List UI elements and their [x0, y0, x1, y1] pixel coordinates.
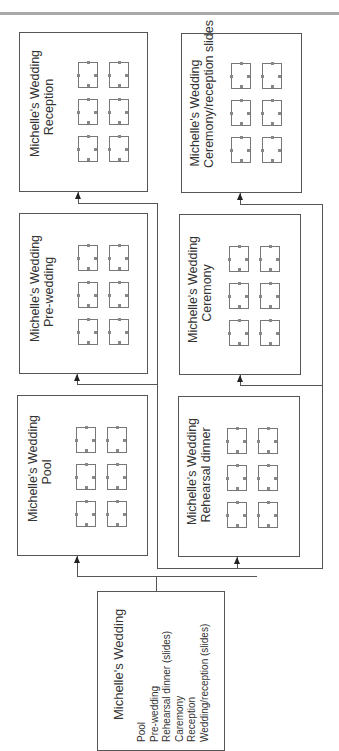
overview-item: Pre-wedding	[149, 624, 162, 742]
section-title-line2: Ceremony/reception slides	[202, 58, 216, 168]
slide-thumbnail	[260, 246, 280, 272]
overview-title: Michelle's Wedding	[112, 609, 126, 720]
slide-thumbnail	[78, 319, 98, 345]
slide-thumbnail	[260, 320, 280, 346]
section-title-line2: Pool	[40, 422, 54, 522]
section-title-line1: Michelle's Wedding	[28, 57, 42, 157]
slide-thumbnail	[109, 319, 129, 345]
section-title: Michelle's Wedding Ceremony/reception sl…	[188, 58, 216, 168]
arrow-up-icon	[74, 374, 80, 381]
arrow-up-icon	[237, 193, 243, 200]
connector	[157, 384, 158, 568]
slide-thumbnail	[76, 427, 96, 453]
section-box-reception: Michelle's Wedding Reception	[19, 32, 148, 192]
slide-thumbnail	[260, 283, 280, 309]
slide-thumbnail	[78, 62, 98, 88]
section-box-pre-wedding: Michelle's Wedding Pre-wedding	[19, 213, 148, 374]
section-title: Michelle's Wedding Pre-wedding	[28, 242, 56, 342]
slide-thumbnail	[76, 464, 96, 490]
overview-item-list: Pool Pre-wedding Rehearsal dinner (slide…	[136, 624, 211, 742]
slide-thumbnail	[262, 100, 282, 126]
slide-thumbnail	[78, 245, 98, 271]
section-title-line2: Reception	[42, 57, 56, 157]
section-box-ceremony: Michelle's Wedding Ceremony	[179, 214, 301, 375]
arrow-up-icon	[75, 192, 81, 199]
slide-thumbnail	[258, 502, 278, 528]
overview-item: Caremony	[174, 624, 187, 742]
slide-thumbnail	[109, 99, 129, 125]
section-box-ceremony-reception-slides: Michelle's Wedding Ceremony/reception sl…	[181, 33, 302, 193]
slide-thumbnail	[78, 136, 98, 162]
section-title-line1: Michelle's Wedding	[186, 243, 200, 343]
slide-thumbnail	[229, 246, 249, 272]
section-title: Michelle's Wedding Pool	[26, 422, 54, 522]
connector	[322, 204, 323, 385]
section-title: Michelle's Wedding Reception	[28, 57, 56, 157]
slide-thumbnail	[107, 464, 127, 490]
section-box-pool: Michelle's Wedding Pool	[17, 395, 148, 556]
slide-thumbnail	[229, 320, 249, 346]
overview-item: Rehearsal dinner (slides)	[161, 624, 174, 742]
section-title-line1: Michelle's Wedding	[185, 425, 199, 525]
slide-thumbnail	[231, 63, 251, 89]
section-title-line2: Ceremony	[200, 243, 214, 343]
connector	[78, 203, 158, 204]
slide-thumbnail	[262, 137, 282, 163]
slide-thumbnail	[231, 137, 251, 163]
slide-thumbnail	[227, 465, 247, 491]
overview-item: Pool	[136, 624, 149, 742]
connector	[157, 568, 323, 569]
slide-thumbnail	[258, 465, 278, 491]
slide-thumbnail	[227, 502, 247, 528]
connector	[240, 204, 323, 205]
slide-thumbnail	[76, 501, 96, 527]
connector	[157, 203, 158, 385]
section-title-line1: Michelle's Wedding	[26, 422, 40, 522]
overview-box: Michelle's Wedding Pool Pre-wedding Rehe…	[97, 591, 225, 751]
connector	[77, 384, 158, 385]
connector	[156, 576, 157, 591]
connector	[240, 385, 323, 386]
slide-thumbnail	[109, 282, 129, 308]
slide-thumbnail	[262, 63, 282, 89]
section-box-rehearsal-dinner: Michelle's Wedding Rehearsal dinner	[178, 396, 300, 557]
arrow-up-icon	[237, 375, 243, 382]
section-title-line2: Rehearsal dinner	[199, 425, 213, 525]
section-title: Michelle's Wedding Ceremony	[186, 243, 214, 343]
overview-item: Wedding/reception (slides)	[199, 624, 212, 742]
slide-thumbnail	[229, 283, 249, 309]
slide-thumbnail	[109, 136, 129, 162]
connector	[77, 576, 257, 577]
slide-thumbnail	[109, 62, 129, 88]
slide-thumbnail	[258, 428, 278, 454]
arrow-up-icon	[74, 556, 80, 563]
section-title-line1: Michelle's Wedding	[28, 242, 42, 342]
slide-thumbnail	[231, 100, 251, 126]
overview-item: Reception	[186, 624, 199, 742]
section-title: Michelle's Wedding Rehearsal dinner	[185, 425, 213, 525]
arrow-up-icon	[234, 557, 240, 564]
slide-thumbnail	[227, 428, 247, 454]
top-rule	[0, 12, 339, 15]
slide-thumbnail	[107, 501, 127, 527]
section-title-line1: Michelle's Wedding	[188, 58, 202, 168]
slide-thumbnail	[107, 427, 127, 453]
connector	[322, 385, 323, 569]
slide-thumbnail	[109, 245, 129, 271]
slide-thumbnail	[78, 99, 98, 125]
section-title-line2: Pre-wedding	[42, 242, 56, 342]
slide-thumbnail	[78, 282, 98, 308]
